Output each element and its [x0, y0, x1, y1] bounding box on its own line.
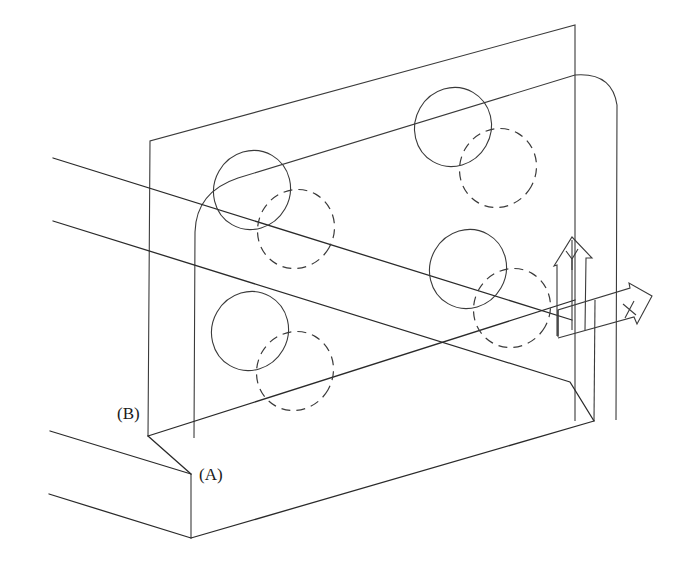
- hole-upper-right: [400, 73, 551, 221]
- label-point-b: (B): [117, 405, 140, 422]
- hole-lower-left: [197, 277, 348, 424]
- ucs-x-glyph-icon: [623, 301, 636, 318]
- base-inner-edge: [148, 300, 575, 436]
- label-point-a: (A): [199, 466, 223, 483]
- lower-leg-edge: [53, 221, 594, 421]
- rounded-flange: [194, 75, 617, 438]
- bracket-drawing: [0, 0, 697, 566]
- hole-lower-right: [415, 215, 565, 361]
- front-plate: [148, 25, 575, 436]
- hole-upper-left: [199, 136, 349, 282]
- ucs-icon: [554, 237, 652, 338]
